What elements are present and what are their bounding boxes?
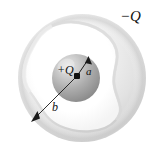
label-inner-charge: +Q — [57, 64, 74, 76]
label-radius-b: b — [52, 101, 58, 113]
physics-figure: −Q +Q a b — [0, 0, 158, 155]
label-outer-charge: −Q — [120, 9, 141, 24]
label-radius-a: a — [86, 66, 92, 77]
center-point-charge-dot — [74, 73, 80, 79]
